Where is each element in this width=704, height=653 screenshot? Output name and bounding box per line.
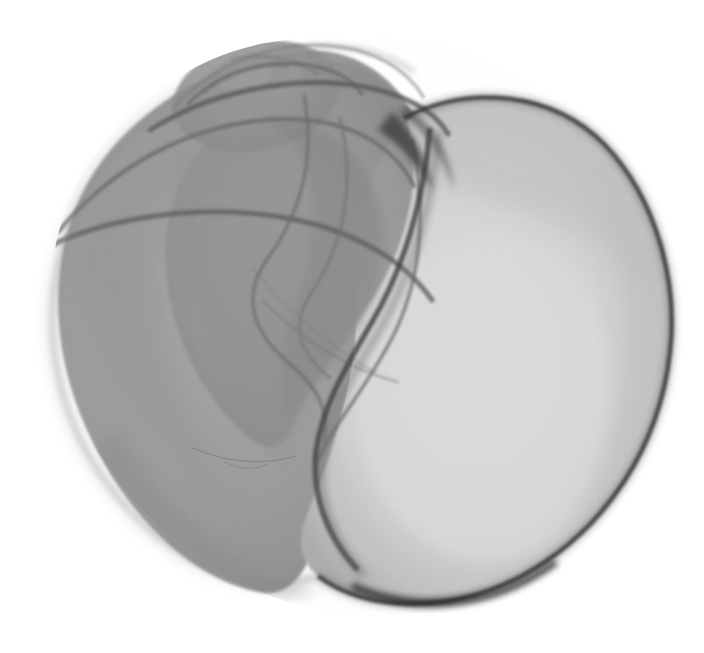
snail-shell-radiograph [0, 0, 704, 653]
radiograph-canvas: X-ray radiograph of a snail shell Graysc… [0, 0, 704, 653]
